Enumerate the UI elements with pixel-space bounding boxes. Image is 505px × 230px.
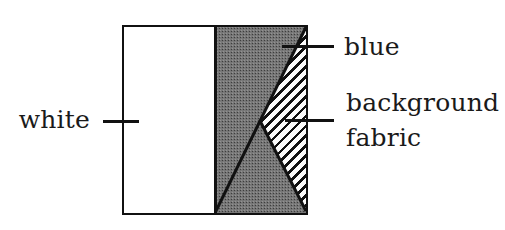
background-fabric-label: background fabric (346, 85, 505, 155)
center-divider-line (214, 27, 217, 213)
blue-label: blue (344, 32, 400, 62)
white-label: white (14, 105, 90, 135)
white-leader-line (103, 120, 139, 123)
figure-canvas: white blue background fabric (0, 0, 505, 230)
quilt-block-diagram (122, 25, 308, 215)
blue-leader-line (282, 45, 334, 48)
background-fabric-leader-line (285, 119, 334, 122)
